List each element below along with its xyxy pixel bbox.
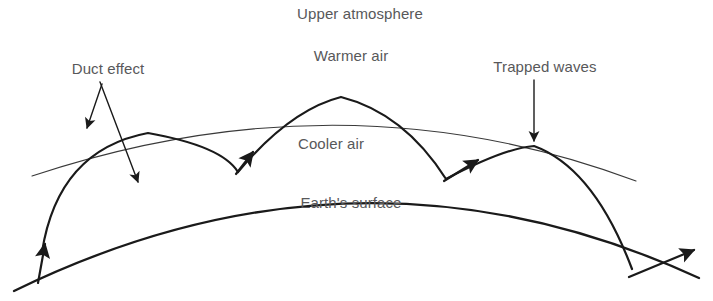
- wave-bounce-arrow-1: [236, 152, 253, 174]
- label-cooler-air: Cooler air: [298, 135, 364, 152]
- label-earths-surface: Earth's surface: [300, 194, 401, 211]
- wave-bounce-arrow-2: [444, 160, 478, 181]
- duct-effect-leader-upper: [87, 84, 102, 128]
- duct-effect-diagram: Upper atmosphere Warmer air Cooler air E…: [0, 0, 713, 301]
- wave-hop-1: [42, 133, 238, 252]
- duct-effect-leader-lower: [100, 82, 138, 182]
- label-duct-effect: Duct effect: [72, 60, 145, 77]
- label-upper-atmosphere: Upper atmosphere: [297, 5, 423, 22]
- label-trapped-waves: Trapped waves: [493, 58, 596, 75]
- earth-surface-arc: [14, 203, 699, 291]
- label-warmer-air: Warmer air: [314, 47, 389, 64]
- wave-hop-3: [446, 146, 632, 269]
